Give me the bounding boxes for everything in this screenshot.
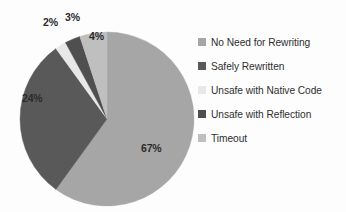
slice-value-label: 2% bbox=[43, 16, 58, 28]
legend-item-label: Unsafe with Reflection bbox=[211, 109, 311, 120]
pie-plot-area: 67% 24% 2% 3% 4% bbox=[0, 0, 200, 212]
pie-slices bbox=[20, 32, 194, 206]
legend-item-label: Safely Rewritten bbox=[211, 61, 284, 72]
slice-value-label: 3% bbox=[65, 11, 80, 23]
legend-item-safely-rewritten[interactable]: Safely Rewritten bbox=[198, 54, 344, 78]
legend-item-label: Timeout bbox=[211, 133, 247, 144]
legend-swatch-icon bbox=[198, 86, 206, 94]
legend-item-timeout[interactable]: Timeout bbox=[198, 126, 344, 150]
legend-swatch-icon bbox=[198, 110, 206, 118]
legend-item-label: Unsafe with Native Code bbox=[211, 85, 322, 96]
legend-swatch-icon bbox=[198, 134, 206, 142]
legend-item-unsafe-with-reflection[interactable]: Unsafe with Reflection bbox=[198, 102, 344, 126]
slice-value-label: 24% bbox=[22, 92, 42, 104]
slice-value-label: 4% bbox=[89, 30, 104, 42]
pie-chart-figure: 67% 24% 2% 3% 4% No Need for Rewriting S… bbox=[0, 0, 346, 212]
legend-item-no-need-for-rewriting[interactable]: No Need for Rewriting bbox=[198, 30, 344, 54]
legend-swatch-icon bbox=[198, 62, 206, 70]
slice-value-label: 67% bbox=[141, 142, 161, 154]
legend-item-label: No Need for Rewriting bbox=[211, 37, 310, 48]
legend-swatch-icon bbox=[198, 38, 206, 46]
chart-legend: No Need for Rewriting Safely Rewritten U… bbox=[198, 30, 344, 152]
legend-item-unsafe-with-native-code[interactable]: Unsafe with Native Code bbox=[198, 78, 344, 102]
